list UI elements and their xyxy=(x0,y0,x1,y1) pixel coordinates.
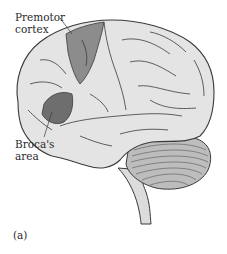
brain-illustration xyxy=(0,0,227,254)
premotor-cortex-label: Premotor cortex xyxy=(15,11,65,35)
panel-label: (a) xyxy=(13,229,27,241)
brain-figure: Premotor cortex Broca's area (a) xyxy=(0,0,227,254)
broca-label-line1: Broca's xyxy=(15,138,54,150)
brocas-area-label: Broca's area xyxy=(15,138,54,162)
broca-label-line2: area xyxy=(15,150,54,162)
premotor-label-line1: Premotor xyxy=(15,11,65,23)
premotor-label-line2: cortex xyxy=(15,23,65,35)
